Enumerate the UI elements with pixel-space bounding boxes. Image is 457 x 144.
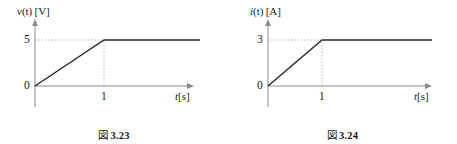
caption-number: 3.24 — [339, 130, 358, 141]
y-tick-label-3: 3 — [257, 33, 263, 45]
x-tick-label-1: 1 — [101, 90, 107, 102]
plot-area-voltage: v(t) [V] t[s] 5 0 1 — [0, 0, 228, 116]
x-axis-unit: [s] — [178, 90, 190, 102]
x-axis-title: t[s] — [414, 90, 429, 102]
figure-caption: 図3.23 — [0, 127, 228, 142]
y-axis-arrowhead — [265, 19, 271, 26]
y-axis-arrowhead — [32, 19, 38, 26]
voltage-plot-svg — [0, 0, 228, 116]
y-axis-argument: (t) — [22, 5, 32, 17]
x-axis-unit: [s] — [417, 90, 429, 102]
y-axis-unit: [A] — [266, 5, 281, 17]
figure-caption: 図3.24 — [228, 127, 457, 142]
signal-curve — [35, 40, 200, 86]
x-axis-title: t[s] — [175, 90, 190, 102]
y-axis-argument: (t) — [253, 5, 263, 17]
caption-mark-icon: 図 — [98, 127, 108, 142]
x-axis-arrowhead — [425, 83, 432, 89]
y-tick-label-5: 5 — [24, 33, 30, 45]
x-axis-arrowhead — [187, 83, 194, 89]
caption-number: 3.23 — [111, 130, 130, 141]
plot-area-current: i(t) [A] t[s] 3 0 1 — [228, 0, 457, 116]
x-tick-label-1: 1 — [319, 90, 325, 102]
signal-curve — [268, 40, 432, 86]
figure-3-24: i(t) [A] t[s] 3 0 1 図3.24 — [228, 0, 457, 144]
figure-3-23: v(t) [V] t[s] 5 0 1 図3.23 — [0, 0, 228, 144]
origin-label: 0 — [257, 79, 263, 91]
y-axis-title: i(t) [A] — [250, 5, 281, 17]
figure-row: v(t) [V] t[s] 5 0 1 図3.23 — [0, 0, 457, 144]
y-axis-unit: [V] — [34, 5, 49, 17]
caption-mark-icon: 図 — [327, 127, 337, 142]
y-axis-title: v(t) [V] — [17, 5, 50, 17]
origin-label: 0 — [24, 79, 30, 91]
